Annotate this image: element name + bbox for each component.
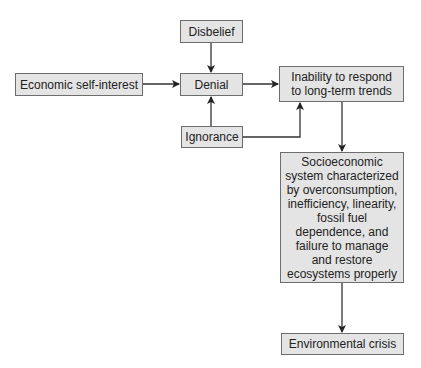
node-socioeconomic-system: Socioeconomic system characterized by ov… [280,152,404,283]
node-denial: Denial [180,73,243,96]
node-inability: Inability to respond to long-term trends [279,66,404,102]
node-environmental-crisis: Environmental crisis [281,333,404,355]
node-disbelief: Disbelief [180,20,243,43]
arrow-ignorance-inability [243,103,300,137]
node-ignorance: Ignorance [181,126,243,148]
node-economic-self-interest: Economic self-interest [15,73,143,96]
